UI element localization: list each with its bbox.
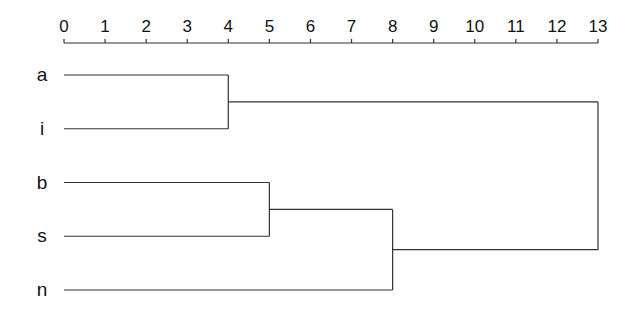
x-axis: 012345678910111213	[59, 17, 607, 43]
leaf-label-n: n	[37, 279, 48, 300]
tick-label: 8	[388, 17, 397, 36]
tick-label: 6	[306, 17, 315, 36]
tick-label: 5	[265, 17, 274, 36]
dendrogram-chart: 012345678910111213 aibsn	[0, 0, 630, 311]
tick-label: 2	[141, 17, 150, 36]
leaf-label-a: a	[37, 64, 48, 85]
tick-label: 0	[59, 17, 68, 36]
tick-label: 7	[347, 17, 356, 36]
tick-label: 3	[182, 17, 191, 36]
leaf-labels: aibsn	[37, 64, 48, 300]
leaf-label-b: b	[37, 172, 48, 193]
tick-label: 9	[429, 17, 438, 36]
leaf-label-i: i	[40, 118, 44, 139]
tick-label: 13	[589, 17, 608, 36]
tick-label: 11	[507, 17, 525, 36]
tick-label: 12	[547, 17, 566, 36]
tick-label: 10	[465, 17, 484, 36]
tick-label: 1	[100, 17, 109, 36]
dendrogram-links	[64, 75, 598, 290]
tick-label: 4	[224, 17, 233, 36]
leaf-label-s: s	[37, 225, 47, 246]
